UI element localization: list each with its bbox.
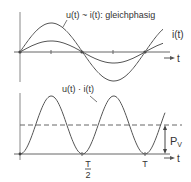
mean-power-arrowhead-bottom [163, 149, 167, 154]
power-diagram: t u(t) ~ i(t): gleichphasig i(t) t u(t) … [0, 0, 191, 182]
bottom-x-axis-arrowhead [170, 156, 175, 160]
mean-power-arrowhead-top [163, 125, 167, 130]
tick-label-half-den: 2 [85, 170, 90, 180]
label-u-leader [63, 20, 67, 27]
top-axis-label-t: t [177, 53, 180, 64]
label-p: u(t) · i(t) [62, 84, 94, 94]
tick-label-full: T [142, 159, 148, 169]
top-graph: t u(t) ~ i(t): gleichphasig i(t) [14, 10, 184, 82]
label-u-gleichphasig: u(t) ~ i(t): gleichphasig [66, 10, 155, 20]
bottom-graph: t u(t) · i(t) T 2 T PV [14, 84, 182, 180]
bottom-min-0 [19, 153, 22, 156]
top-x-axis-arrowhead [170, 56, 175, 60]
bottom-axis-label-t: t [177, 153, 180, 164]
tick-label-half-num: T [85, 159, 91, 169]
label-p-leader [90, 96, 97, 102]
label-i: i(t) [172, 29, 184, 40]
mean-power-label: PV [170, 135, 182, 148]
